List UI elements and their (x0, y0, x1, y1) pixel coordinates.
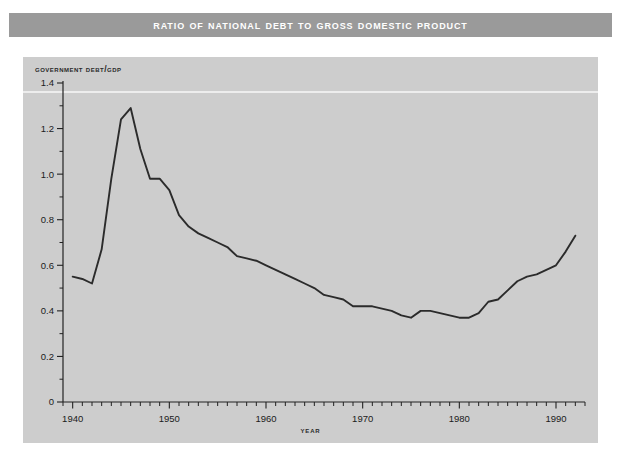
x-tick-label: 1940 (62, 413, 83, 424)
x-tick-label: 1980 (449, 413, 470, 424)
y-tick-label: 0.2 (41, 351, 54, 362)
page-title: Ratio of National Debt to Gross Domestic… (9, 13, 612, 37)
x-tick-label: 1960 (255, 413, 276, 424)
y-tick-label: 1.4 (41, 77, 54, 88)
y-tick-label: 1.0 (41, 169, 54, 180)
x-tick-label: 1970 (352, 413, 373, 424)
x-axis-caption: Year (23, 426, 598, 435)
x-tick-label: 1950 (159, 413, 180, 424)
chart-series-group (73, 108, 576, 318)
y-tick-label: 0.4 (41, 305, 54, 316)
data-series-line (73, 108, 576, 318)
y-tick-label: 1.2 (41, 123, 54, 134)
y-tick-label: 0.8 (41, 214, 54, 225)
chart-axes (63, 81, 585, 402)
y-tick-label: 0 (49, 396, 54, 407)
line-chart-plot: 00.20.40.60.81.01.21.4194019501960197019… (23, 57, 598, 443)
y-tick-label: 0.6 (41, 260, 54, 271)
chart-title-banner: Ratio of National Debt to Gross Domestic… (9, 13, 612, 37)
chart-panel: Government debt/GDP 00.20.40.60.81.01.21… (23, 57, 598, 443)
x-tick-label: 1990 (545, 413, 566, 424)
